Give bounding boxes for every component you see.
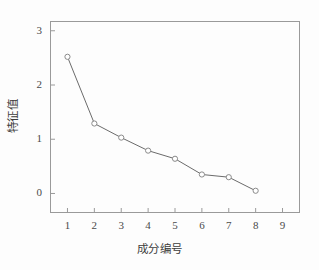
y-tick-label: 0 xyxy=(26,187,42,198)
x-tick-label: 3 xyxy=(113,220,129,231)
y-axis-title: 特征值 xyxy=(4,68,20,164)
scree-plot-figure: 0123 123456789 特征值 成分编号 xyxy=(0,0,319,270)
x-tick-label: 7 xyxy=(221,220,237,231)
x-tick-label: 6 xyxy=(194,220,210,231)
x-axis-title: 成分编号 xyxy=(0,240,319,256)
y-tick-label: 3 xyxy=(26,25,42,36)
x-tick-label: 9 xyxy=(275,220,291,231)
x-tick-label: 8 xyxy=(248,220,264,231)
x-tick-label: 4 xyxy=(140,220,156,231)
y-tick-label: 1 xyxy=(26,133,42,144)
plot-frame xyxy=(50,21,300,213)
x-tick-label: 2 xyxy=(86,220,102,231)
x-tick-label: 1 xyxy=(59,220,75,231)
y-tick-label: 2 xyxy=(26,79,42,90)
x-tick-label: 5 xyxy=(167,220,183,231)
